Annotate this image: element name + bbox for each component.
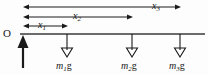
dimension-label-x1: x1 xyxy=(38,20,46,30)
force-label-m2g-subscript: 2 xyxy=(128,65,132,73)
weight-arrow-m1g xyxy=(62,34,73,57)
force-label-m2g: m2g xyxy=(121,61,137,71)
dimension-label-x3-subscript: 3 xyxy=(156,5,160,13)
force-diagram: O x3 x2 x1 m1g m2g m3g xyxy=(0,0,208,75)
origin-label: O xyxy=(3,28,11,39)
force-label-m3g: m3g xyxy=(169,61,185,71)
force-label-m3g-gravity: g xyxy=(180,60,185,71)
force-label-m1g-gravity: g xyxy=(67,60,72,71)
dimension-label-x2-subscript: 2 xyxy=(77,15,81,23)
dimension-label-x3: x3 xyxy=(152,1,160,11)
force-label-m1g: m1g xyxy=(56,61,72,71)
upward-reaction-arrow xyxy=(18,35,29,68)
dimension-label-x2: x2 xyxy=(73,11,81,21)
force-label-m3g-subscript: 3 xyxy=(176,65,180,73)
dimension-label-x1-subscript: 1 xyxy=(42,24,46,32)
force-label-m1g-subscript: 1 xyxy=(63,65,67,73)
force-label-m2g-gravity: g xyxy=(132,60,137,71)
weight-arrow-m2g xyxy=(127,34,138,57)
weight-arrow-m3g xyxy=(175,34,186,57)
